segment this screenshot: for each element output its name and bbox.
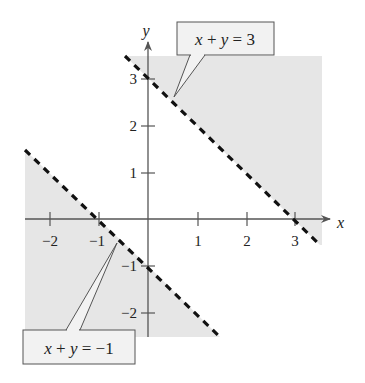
y-tick-label: 3	[130, 71, 138, 87]
callout-upper-plus: +	[203, 30, 221, 49]
callout-upper-eq: = 3	[228, 30, 255, 49]
callout-lower-y: y	[68, 339, 78, 358]
x-tick-label: 2	[243, 233, 251, 249]
svg-text:x + y = 3: x + y = 3	[194, 30, 255, 49]
x-axis-label: x	[336, 214, 344, 231]
y-tick-label: −1	[121, 258, 137, 274]
y-tick-label: −2	[121, 305, 137, 321]
y-axis-label: y	[140, 22, 150, 40]
y-tick-label: 1	[130, 165, 138, 181]
callout-lower-plus: +	[52, 339, 70, 358]
y-tick-label: 2	[130, 118, 138, 134]
svg-text:x + y = −1: x + y = −1	[43, 339, 113, 358]
x-tick-label: 1	[194, 233, 202, 249]
x-tick-label: −1	[89, 233, 105, 249]
x-tick-label: −2	[42, 233, 58, 249]
callout-upper-y: y	[219, 30, 229, 49]
callout-lower-eq: = −1	[78, 339, 114, 358]
inequality-graph: −2 −1 1 2 3 3 2 1 −1 −2 x y x + y = 3 x …	[0, 0, 365, 383]
shaded-region-upper-right	[148, 56, 322, 245]
x-tick-label: 3	[291, 233, 299, 249]
